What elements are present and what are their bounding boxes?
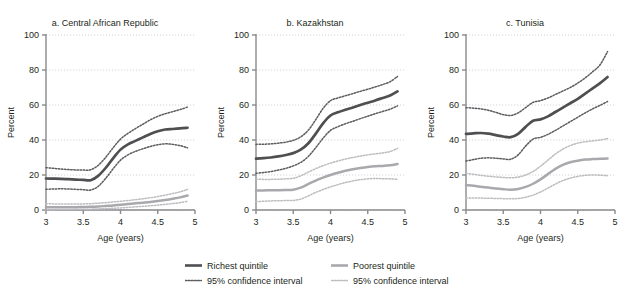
x-tick-label: 3.5: [497, 217, 510, 227]
series-line: [466, 52, 608, 116]
y-tick-label: 0: [244, 205, 249, 215]
x-tick-label: 3: [463, 217, 468, 227]
y-tick-label: 40: [449, 135, 459, 145]
y-tick-label: 60: [449, 100, 459, 110]
series-line: [466, 159, 608, 190]
panels-row: a. Central African Republic 020406080100…: [0, 18, 630, 256]
panel-c-plot: 02040608010033.544.55Age (years)Percent: [420, 27, 630, 256]
panel-tunisia: c. Tunisia 02040608010033.544.55Age (yea…: [420, 18, 630, 256]
legend-item-poorest-line: Poorest quintile: [331, 258, 449, 273]
y-tick-label: 80: [449, 65, 459, 75]
y-tick-label: 100: [234, 30, 249, 40]
panel-b-plot: 02040608010033.544.55Age (years)Percent: [210, 27, 420, 256]
y-tick-label: 40: [239, 135, 249, 145]
x-tick-label: 4.5: [361, 217, 374, 227]
x-tick-label: 4: [118, 217, 123, 227]
legend-item-poorest-ci: 95% confidence interval: [331, 273, 449, 288]
richest-line-swatch-icon: [185, 261, 202, 270]
poorest-line-swatch-icon: [331, 261, 348, 270]
figure-container: a. Central African Republic 020406080100…: [0, 0, 630, 296]
x-axis-title: Age (years): [517, 233, 564, 243]
legend-item-richest-ci: 95% confidence interval: [185, 273, 303, 288]
y-axis-title: Percent: [6, 106, 16, 138]
series-line: [46, 189, 188, 204]
y-axis-title: Percent: [216, 106, 226, 138]
series-line: [466, 77, 608, 137]
richest-ci-dotted-swatch-icon: [185, 276, 202, 285]
series-line: [46, 107, 188, 170]
y-tick-label: 100: [444, 30, 459, 40]
panel-a-plot: 02040608010033.544.55Age (years)Percent: [0, 27, 210, 256]
poorest-ci-dotted-swatch-icon: [331, 276, 348, 285]
y-tick-label: 20: [449, 170, 459, 180]
x-tick-label: 5: [402, 217, 407, 227]
y-tick-label: 0: [34, 205, 39, 215]
x-tick-label: 3: [253, 217, 258, 227]
y-tick-label: 80: [239, 65, 249, 75]
legend-label-poorest-ci: 95% confidence interval: [353, 276, 449, 286]
x-tick-label: 3.5: [77, 217, 90, 227]
figure-caption-fragment: [0, 0, 630, 7]
x-tick-label: 5: [612, 217, 617, 227]
x-tick-label: 4.5: [151, 217, 164, 227]
series-line: [46, 128, 188, 181]
series-line: [256, 91, 398, 158]
series-line: [46, 144, 188, 190]
y-tick-label: 40: [29, 135, 39, 145]
legend-column-poorest: Poorest quintile 95% confidence interval: [331, 258, 449, 288]
x-tick-label: 4: [538, 217, 543, 227]
y-axis-title: Percent: [426, 106, 436, 138]
x-tick-label: 3.5: [287, 217, 300, 227]
panel-central-african-republic: a. Central African Republic 020406080100…: [0, 18, 210, 256]
x-tick-label: 4: [328, 217, 333, 227]
y-tick-label: 20: [239, 170, 249, 180]
x-axis-title: Age (years): [307, 233, 354, 243]
x-tick-label: 4.5: [571, 217, 584, 227]
legend-label-poorest-line: Poorest quintile: [353, 261, 415, 271]
series-line: [256, 164, 398, 190]
x-tick-label: 3: [43, 217, 48, 227]
y-tick-label: 60: [29, 100, 39, 110]
x-axis-title: Age (years): [97, 233, 144, 243]
y-tick-label: 60: [239, 100, 249, 110]
y-tick-label: 20: [29, 170, 39, 180]
legend-label-richest-ci: 95% confidence interval: [207, 276, 303, 286]
y-tick-label: 100: [24, 30, 39, 40]
panel-kazakhstan: b. Kazakhstan 02040608010033.544.55Age (…: [210, 18, 420, 256]
x-tick-label: 5: [192, 217, 197, 227]
figure-legend: Richest quintile 95% confidence interval…: [0, 258, 630, 296]
legend-label-richest-line: Richest quintile: [207, 261, 268, 271]
y-tick-label: 0: [454, 205, 459, 215]
legend-item-richest-line: Richest quintile: [185, 258, 303, 273]
series-line: [256, 106, 398, 173]
y-tick-label: 80: [29, 65, 39, 75]
legend-column-richest: Richest quintile 95% confidence interval: [185, 258, 303, 288]
